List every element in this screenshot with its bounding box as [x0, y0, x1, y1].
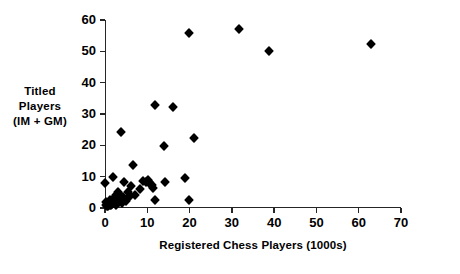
- y-tick-label-20: 20: [62, 137, 96, 152]
- data-point: [235, 24, 245, 34]
- data-point: [264, 46, 274, 56]
- data-point: [128, 160, 138, 170]
- x-tick-label-60: 60: [342, 215, 376, 230]
- x-tick-70: [400, 208, 401, 213]
- plot-area: [105, 20, 401, 208]
- y-tick-label-0: 0: [62, 200, 96, 215]
- y-tick-label-10: 10: [62, 169, 96, 184]
- data-point: [159, 141, 169, 151]
- y-tick-label-60: 60: [62, 12, 96, 27]
- x-tick-label-20: 20: [173, 215, 207, 230]
- x-tick-label-40: 40: [257, 215, 291, 230]
- data-point: [180, 173, 190, 183]
- x-tick-20: [189, 208, 190, 213]
- x-tick-label-70: 70: [384, 215, 418, 230]
- data-point: [168, 102, 178, 112]
- y-tick-label-40: 40: [62, 75, 96, 90]
- x-tick-30: [231, 208, 232, 213]
- x-tick-label-30: 30: [215, 215, 249, 230]
- data-point: [100, 178, 110, 188]
- x-tick-40: [273, 208, 274, 213]
- scatter-chart: Titled Players (IM + GM) 010203040506001…: [0, 0, 460, 274]
- x-tick-label-10: 10: [130, 215, 164, 230]
- data-point: [150, 100, 160, 110]
- data-point: [108, 172, 118, 182]
- data-point: [116, 127, 126, 137]
- data-point: [150, 195, 160, 205]
- x-tick-60: [358, 208, 359, 213]
- y-tick-label-30: 30: [62, 106, 96, 121]
- data-point: [160, 177, 170, 187]
- data-point: [184, 195, 194, 205]
- x-tick-label-50: 50: [299, 215, 333, 230]
- y-tick-label-50: 50: [62, 43, 96, 58]
- x-tick-10: [147, 208, 148, 213]
- data-point: [184, 28, 194, 38]
- data-point: [189, 133, 199, 143]
- x-tick-50: [316, 208, 317, 213]
- x-axis-title: Registered Chess Players (1000s): [105, 239, 401, 251]
- data-point: [366, 39, 376, 49]
- x-tick-label-0: 0: [88, 215, 122, 230]
